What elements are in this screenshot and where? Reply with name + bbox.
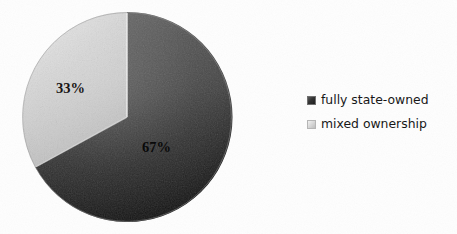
chart-legend: fully state-owned mixed ownership xyxy=(307,88,453,136)
legend-label-mixed-ownership: mixed ownership xyxy=(321,117,427,131)
pie-chart-graphic xyxy=(21,11,233,223)
legend-label-fully-state-owned: fully state-owned xyxy=(321,93,429,107)
legend-item-mixed-ownership[interactable]: mixed ownership xyxy=(307,112,453,136)
legend-item-fully-state-owned[interactable]: fully state-owned xyxy=(307,88,453,112)
pie-label-mixed-ownership: 33% xyxy=(56,80,85,97)
pie-chart-figure: 33% 67% fully state-owned mixed ownershi… xyxy=(0,0,457,234)
pie-label-fully-state-owned: 67% xyxy=(142,139,171,156)
pie-svg xyxy=(21,11,233,223)
pie-texture-overlay xyxy=(21,11,233,223)
legend-swatch-dark-icon xyxy=(307,96,316,105)
legend-swatch-light-icon xyxy=(307,120,316,129)
